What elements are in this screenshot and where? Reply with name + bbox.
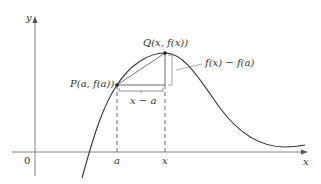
x-axis-label: x (303, 157, 309, 167)
leader-line (176, 64, 202, 70)
y-axis-arrow-icon (33, 16, 38, 23)
secant-line (117, 53, 165, 85)
diagram-canvas (0, 0, 321, 184)
origin-label: 0 (24, 156, 30, 166)
horizontal-annotation: x − a (130, 96, 156, 106)
point-p-label: P(a, f(a)) (70, 79, 114, 89)
brace-vertical (168, 55, 172, 85)
point-q (163, 51, 167, 55)
vertical-annotation: f(x) − f(a) (205, 58, 254, 68)
tick-label-a: a (114, 156, 120, 166)
brace-horizontal (119, 88, 163, 91)
y-axis-label: y (26, 13, 32, 23)
point-p (115, 83, 119, 87)
x-axis-arrow-icon (301, 150, 308, 155)
point-q-label: Q(x, f(x)) (143, 38, 188, 48)
tick-label-x: x (162, 156, 168, 166)
